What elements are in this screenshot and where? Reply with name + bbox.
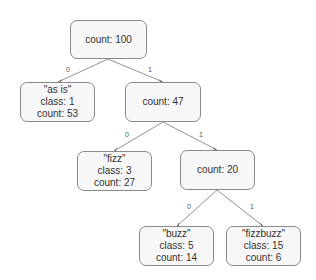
node-class: class: 5 <box>160 240 194 252</box>
node-class: class: 3 <box>98 165 132 177</box>
edge-label-0: 0 <box>66 66 70 73</box>
node-label: "fizzbuzz" <box>242 228 285 240</box>
node-label: "fizz" <box>103 153 125 165</box>
edge-label-0: 0 <box>125 131 129 138</box>
node-text: count: 20 <box>197 164 238 176</box>
tree-node-root: count: 100 <box>70 20 147 59</box>
tree-node-47: count: 47 <box>125 82 201 122</box>
tree-leaf-buzz: "buzz" class: 5 count: 14 <box>139 226 214 266</box>
edge-label-0: 0 <box>187 203 191 210</box>
tree-leaf-fizzbuzz: "fizzbuzz" class: 15 count: 6 <box>226 226 301 266</box>
node-class: class: 15 <box>244 240 283 252</box>
edge-label-1: 1 <box>250 203 254 210</box>
node-count: count: 6 <box>246 252 282 264</box>
tree-leaf-fizz: "fizz" class: 3 count: 27 <box>77 151 152 191</box>
node-text: count: 100 <box>85 34 132 46</box>
node-text: count: 47 <box>142 96 183 108</box>
node-count: count: 27 <box>94 177 135 189</box>
edge-label-1: 1 <box>199 131 203 138</box>
node-count: count: 14 <box>156 252 197 264</box>
node-label: "buzz" <box>162 228 190 240</box>
tree-node-20: count: 20 <box>180 150 255 190</box>
node-label: "as is" <box>44 84 72 96</box>
node-class: class: 1 <box>41 96 75 108</box>
tree-leaf-as-is: "as is" class: 1 count: 53 <box>20 82 95 122</box>
node-count: count: 53 <box>37 108 78 120</box>
edge-label-1: 1 <box>148 66 152 73</box>
